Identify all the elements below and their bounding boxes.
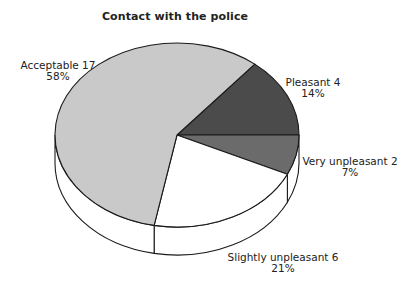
label-acceptable-pct: 58% [8,71,108,82]
label-pleasant: Pleasant 4 14% [268,77,358,99]
label-slightly-unpleasant: Slightly unpleasant 6 21% [218,252,348,274]
label-very-unpleasant: Very unpleasant 2 7% [300,156,400,178]
label-slightly-unpleasant-pct: 21% [218,263,348,274]
label-very-unpleasant-pct: 7% [300,167,400,178]
pie-chart [0,0,410,283]
label-acceptable: Acceptable 17 58% [8,60,108,82]
label-pleasant-pct: 14% [268,88,358,99]
